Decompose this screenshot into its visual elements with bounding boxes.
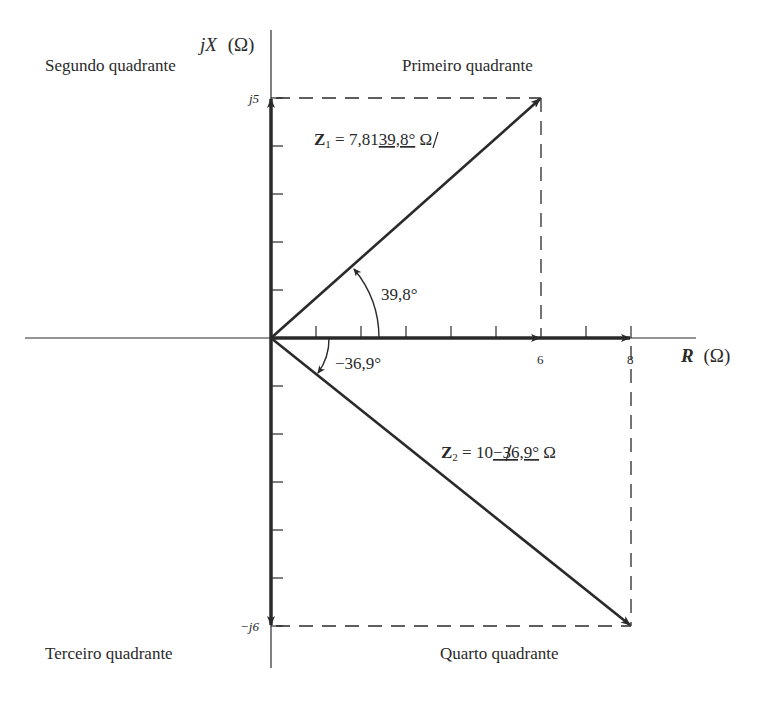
- real-axis-ticks: [316, 326, 631, 338]
- tick-label-8: 8: [627, 352, 634, 367]
- z2-symbol: Z: [441, 443, 452, 462]
- phasor-z1-equation: Z1 = 7,8139,8° Ω: [314, 130, 432, 150]
- angle-label-z2: −36,9°: [335, 354, 381, 373]
- z1-angle-symbol: [433, 132, 438, 148]
- z2-angle: −36,9°: [493, 443, 539, 462]
- z1-symbol: Z: [314, 130, 325, 149]
- tick-label-minus-j6: −j6: [240, 619, 259, 634]
- real-axis-var: R: [680, 345, 694, 366]
- imaginary-axis-unit: (Ω): [228, 34, 255, 56]
- z2-unit: Ω: [539, 443, 556, 462]
- imaginary-axis-var: jX: [197, 34, 218, 55]
- tick-label-6: 6: [537, 352, 544, 367]
- angle-label-z1: 39,8°: [381, 285, 418, 304]
- z1-angle: 39,8°: [379, 130, 416, 149]
- angle-arc-z1: [354, 269, 379, 338]
- angle-arc-z2: [318, 338, 329, 373]
- quadrant-label-second: Segundo quadrante: [45, 56, 176, 75]
- quadrant-label-fourth: Quarto quadrante: [440, 644, 558, 663]
- real-axis-label: R (Ω): [680, 345, 730, 367]
- z1-unit: Ω: [415, 130, 432, 149]
- phasor-z2-equation: Z2 = 10−36,9° Ω: [441, 443, 556, 463]
- impedance-diagram: Segundo quadrante Primeiro quadrante Ter…: [0, 0, 757, 702]
- imaginary-axis-ticks: [271, 98, 283, 626]
- z1-magnitude: = 7,81: [331, 130, 379, 149]
- z2-magnitude: = 10: [458, 443, 493, 462]
- imaginary-axis-label: jX (Ω): [197, 34, 254, 56]
- real-axis-unit: (Ω): [703, 345, 730, 367]
- phasor-z2-arrow: [271, 338, 630, 625]
- tick-label-j5: j5: [247, 91, 260, 106]
- quadrant-label-third: Terceiro quadrante: [45, 644, 173, 663]
- quadrant-label-first: Primeiro quadrante: [402, 56, 533, 75]
